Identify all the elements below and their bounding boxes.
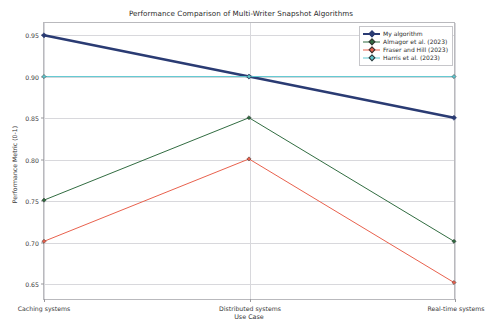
legend-marker-icon <box>368 38 375 45</box>
legend-item[interactable]: Fraser and Hill (2023) <box>363 46 448 54</box>
legend-label: My algorithm <box>383 30 423 38</box>
x-tick-label: Real-time systems <box>427 305 484 312</box>
legend-swatch-icon <box>363 54 380 62</box>
legend-marker-icon <box>368 46 375 53</box>
y-tick-label: 0.90 <box>25 73 39 80</box>
chart-title: Performance Comparison of Multi-Writer S… <box>0 9 482 18</box>
legend-swatch-icon <box>363 38 380 46</box>
legend-item[interactable]: Almagor et al. (2023) <box>363 38 448 46</box>
legend-label: Fraser and Hill (2023) <box>383 46 448 54</box>
y-tick-label: 0.65 <box>25 281 39 288</box>
y-tick-label: 0.80 <box>25 156 39 163</box>
legend-swatch-icon <box>363 46 380 54</box>
series-line <box>44 118 454 242</box>
x-tick-label: Caching systems <box>18 305 71 312</box>
legend-label: Harris et al. (2023) <box>383 54 440 62</box>
legend-label: Almagor et al. (2023) <box>383 38 447 46</box>
legend-marker-icon <box>368 30 375 37</box>
x-axis-label: Use Case <box>43 313 455 321</box>
legend-item[interactable]: My algorithm <box>363 30 448 38</box>
data-point-marker <box>41 33 46 38</box>
legend-item[interactable]: Harris et al. (2023) <box>363 54 448 62</box>
chart-legend[interactable]: My algorithmAlmagor et al. (2023)Fraser … <box>359 26 453 66</box>
series-line <box>44 159 454 283</box>
gridline-vertical <box>455 23 456 299</box>
x-tick-label: Distributed systems <box>219 305 281 312</box>
y-tick-label: 0.85 <box>25 115 39 122</box>
x-tick-mark <box>455 299 456 302</box>
y-tick-label: 0.75 <box>25 198 39 205</box>
x-tick-mark <box>44 299 45 302</box>
x-tick-mark <box>250 299 251 302</box>
y-tick-label: 0.70 <box>25 239 39 246</box>
data-point-marker <box>42 74 46 78</box>
y-tick-label: 0.95 <box>25 32 39 39</box>
legend-swatch-icon <box>363 30 380 38</box>
legend-marker-icon <box>368 54 375 61</box>
plot-area: 0.650.700.750.800.850.900.95 Caching sys… <box>43 22 455 300</box>
y-axis-label: Performance Metric (0-1) <box>11 105 18 225</box>
